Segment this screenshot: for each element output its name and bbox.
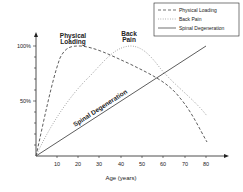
x-tick-label: 10 [54, 161, 60, 167]
x-tick-labels: 10 20 30 40 50 60 70 80 [54, 161, 209, 167]
x-tick-label: 40 [118, 161, 124, 167]
x-axis-arrow-icon [224, 154, 229, 158]
x-tick-label: 60 [160, 161, 166, 167]
legend-label-back-pain: Back Pain [179, 16, 202, 22]
legend-label-physical: Physical Loading [179, 7, 217, 13]
axes [34, 32, 229, 158]
y-axis-arrow-icon [34, 32, 38, 37]
line-chart: 10 20 30 40 50 60 70 80 Age (years) 100%… [0, 0, 243, 192]
x-tick-label: 80 [203, 161, 209, 167]
annotation-physical-line2: Loading [60, 38, 85, 46]
y-tick-label-100: 100% [17, 43, 31, 49]
x-axis-label: Age (years) [105, 175, 136, 181]
y-ticks [33, 46, 36, 145]
annotation-spinal: Spinal Degeneration [72, 88, 129, 129]
x-tick-label: 20 [75, 161, 81, 167]
legend-label-spinal: Spinal Degeneration [179, 25, 225, 31]
x-tick-label: 70 [182, 161, 188, 167]
x-tick-label: 30 [96, 161, 102, 167]
y-tick-label-50: 50% [20, 98, 31, 104]
annotation-back-line2: Pain [122, 36, 136, 43]
x-tick-label: 50 [139, 161, 145, 167]
series-spinal-degeneration [36, 46, 206, 156]
legend: Physical Loading Back Pain Spinal Degene… [154, 3, 239, 36]
